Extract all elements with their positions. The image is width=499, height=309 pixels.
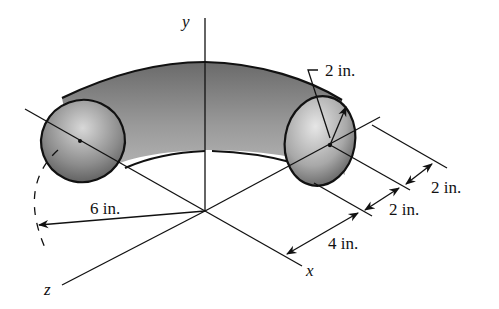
offset-1-label: 2 in. <box>431 178 461 197</box>
z-axis-label: z <box>43 280 51 299</box>
offset-2-label: 2 in. <box>389 200 419 219</box>
x-axis-label: x <box>305 261 314 280</box>
tube-radius-label: 2 in. <box>325 61 355 80</box>
offset-3-label: 4 in. <box>328 234 358 253</box>
bend-radius-label: 6 in. <box>90 199 120 218</box>
x-axis <box>205 211 302 266</box>
y-axis-label: y <box>180 12 190 31</box>
z-axis <box>62 211 205 285</box>
bend-radius-arrow <box>39 211 205 225</box>
pipe-elbow-diagram: y z x 6 in. 2 in. 2 in. 2 in. 4 in. <box>0 0 499 309</box>
